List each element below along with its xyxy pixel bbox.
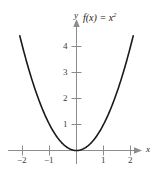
function-equation-text: f(x) = x: [83, 12, 113, 23]
function-equation-label: f(x) = x2: [83, 13, 116, 23]
plot-canvas: [0, 0, 160, 169]
y-tick-label-4: 4: [63, 42, 68, 51]
x-tick-label--2: −2: [17, 156, 27, 165]
x-axis-label: x: [146, 145, 150, 154]
y-axis-arrow-icon: [73, 19, 79, 27]
x-axis-arrow-icon: [134, 147, 142, 153]
parabola-figure: −2 −1 1 2 1 2 3 4 x y f(x) = x2: [0, 0, 160, 169]
function-exponent: 2: [113, 11, 116, 18]
y-tick-label-1: 1: [63, 120, 68, 129]
y-tick-label-3: 3: [63, 68, 68, 77]
x-tick-label--1: −1: [44, 156, 54, 165]
y-axis-label: y: [74, 11, 78, 20]
x-tick-label-1: 1: [101, 156, 106, 165]
y-tick-label-2: 2: [63, 94, 68, 103]
x-tick-label-2: 2: [128, 156, 133, 165]
